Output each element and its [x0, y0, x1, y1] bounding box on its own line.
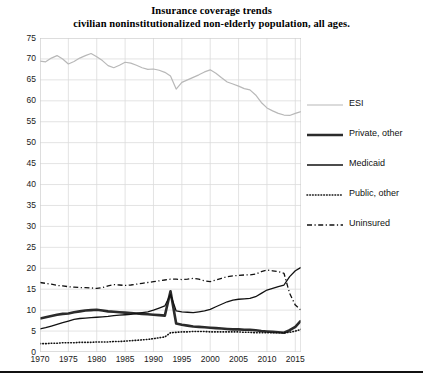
chart-title: Insurance coverage trends civilian nonin… — [0, 4, 423, 30]
legend-line-sample — [306, 219, 344, 231]
legend-swatch — [306, 127, 344, 139]
plot-background — [40, 38, 301, 352]
line-chart-svg — [40, 38, 301, 352]
legend-swatch — [306, 97, 344, 109]
y-tick-label: 5 — [6, 327, 36, 336]
legend-item: ESI — [306, 96, 421, 109]
x-tick-label: 2015 — [278, 355, 312, 364]
chart-title-line2: civilian noninstitutionalized non-elderl… — [0, 17, 423, 30]
legend-label: Medicaid — [349, 158, 385, 168]
legend-line-sample — [306, 129, 344, 141]
legend-item: Uninsured — [306, 216, 421, 229]
legend-line-sample — [306, 99, 344, 111]
legend-label: ESI — [349, 98, 364, 108]
bottom-divider — [0, 371, 423, 373]
y-tick-label: 30 — [6, 222, 36, 231]
y-tick-label: 20 — [6, 264, 36, 273]
legend-item: Private, other — [306, 126, 421, 139]
legend-label: Uninsured — [349, 218, 390, 228]
y-tick-label: 35 — [6, 201, 36, 210]
y-tick-label: 15 — [6, 285, 36, 294]
y-tick-label: 65 — [6, 75, 36, 84]
chart-legend: ESIPrivate, otherMedicaidPublic, otherUn… — [306, 96, 421, 246]
legend-label: Private, other — [349, 128, 403, 138]
y-tick-label: 55 — [6, 117, 36, 126]
y-tick-label: 10 — [6, 306, 36, 315]
legend-line-sample — [306, 159, 344, 171]
legend-swatch — [306, 157, 344, 169]
legend-line-sample — [306, 189, 344, 201]
y-tick-label: 70 — [6, 54, 36, 63]
legend-item: Public, other — [306, 186, 421, 199]
y-tick-label: 40 — [6, 180, 36, 189]
y-tick-label: 45 — [6, 159, 36, 168]
chart-title-line1: Insurance coverage trends — [0, 4, 423, 17]
legend-swatch — [306, 217, 344, 229]
y-tick-label: 25 — [6, 243, 36, 252]
y-tick-label: 50 — [6, 138, 36, 147]
y-tick-label: 60 — [6, 96, 36, 105]
chart-figure: Insurance coverage trends civilian nonin… — [0, 0, 423, 386]
legend-item: Medicaid — [306, 156, 421, 169]
plot-area — [40, 38, 301, 352]
y-tick-label: 75 — [6, 34, 36, 43]
legend-swatch — [306, 187, 344, 199]
legend-label: Public, other — [349, 188, 399, 198]
